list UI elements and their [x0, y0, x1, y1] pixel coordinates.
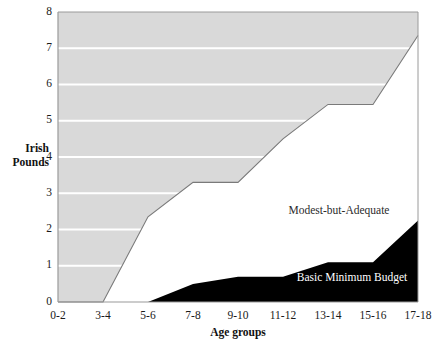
y-axis-title-line2: Pounds	[13, 156, 50, 168]
y-axis-title-line1: Irish	[25, 142, 49, 154]
x-tick-label-9-10: 9-10	[227, 309, 248, 321]
x-tick-label-7-8: 7-8	[185, 309, 201, 321]
x-tick-label-11-12: 11-12	[270, 309, 297, 321]
chart-container: 012345678 0-23-45-67-89-1011-1213-1415-1…	[0, 0, 444, 345]
x-axis-title: Age groups	[210, 326, 266, 339]
x-tick-label-13-14: 13-14	[315, 309, 342, 321]
x-axis-tick-labels: 0-23-45-67-89-1011-1213-1415-1617-18	[50, 309, 431, 321]
y-tick-label-6: 6	[46, 77, 52, 89]
x-tick-label-15-16: 15-16	[360, 309, 387, 321]
y-tick-label-3: 3	[46, 186, 52, 198]
area-chart: 012345678 0-23-45-67-89-1011-1213-1415-1…	[0, 0, 444, 345]
y-tick-label-5: 5	[46, 113, 52, 125]
x-tick-label-3-4: 3-4	[95, 309, 111, 321]
y-tick-label-0: 0	[46, 295, 52, 307]
y-tick-label-8: 8	[46, 5, 52, 17]
y-tick-label-1: 1	[46, 258, 52, 270]
y-tick-label-7: 7	[46, 41, 52, 53]
x-tick-label-0-2: 0-2	[50, 309, 66, 321]
y-tick-label-2: 2	[46, 222, 52, 234]
x-tick-label-5-6: 5-6	[140, 309, 156, 321]
series-label-basic-minimum-budget: Basic Minimum Budget	[297, 271, 408, 284]
series-label-modest-but-adequate: Modest-but-Adequate	[289, 204, 390, 217]
x-tick-label-17-18: 17-18	[405, 309, 432, 321]
